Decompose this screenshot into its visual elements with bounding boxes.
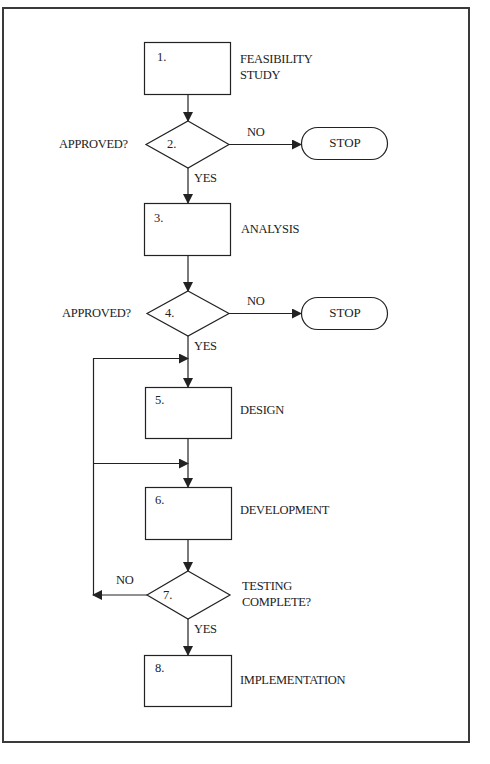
step-number-7: 7. xyxy=(163,588,172,602)
step-label-3: ANALYSIS xyxy=(241,222,299,237)
decision-label-7-line2: COMPLETE? xyxy=(242,595,311,610)
step-label-5: DESIGN xyxy=(240,403,284,418)
edge-label-2-no: NO xyxy=(247,125,264,140)
decision-label-2: APPROVED? xyxy=(59,137,128,152)
step-number-4: 4. xyxy=(165,306,174,320)
stop-terminal-2-label: STOP xyxy=(302,305,388,321)
step-number-5: 5. xyxy=(155,393,164,407)
step-label-6: DEVELOPMENT xyxy=(240,503,329,518)
step-label-8: IMPLEMENTATION xyxy=(240,673,345,688)
decision-label-7-line1: TESTING xyxy=(242,579,292,594)
decision-label-4: APPROVED? xyxy=(62,306,131,321)
flowchart-canvas xyxy=(0,0,490,764)
edge-label-7-yes: YES xyxy=(194,622,217,637)
decision-diamond-4 xyxy=(147,291,229,336)
edge-label-2-yes: YES xyxy=(194,171,217,186)
step-number-6: 6. xyxy=(155,493,164,507)
step-number-3: 3. xyxy=(154,211,163,225)
edge-label-4-yes: YES xyxy=(194,339,217,354)
step-number-2: 2. xyxy=(167,137,176,151)
stop-terminal-1-label: STOP xyxy=(302,135,388,151)
edge-label-7-no: NO xyxy=(116,573,133,588)
step-label-1-line1: FEASIBILITY xyxy=(240,52,312,67)
decision-diamond-2 xyxy=(146,121,229,168)
edge-label-4-no: NO xyxy=(247,294,264,309)
step-label-1-line2: STUDY xyxy=(240,68,280,83)
step-number-1: 1. xyxy=(157,50,166,64)
step-number-8: 8. xyxy=(155,661,164,675)
decision-diamond-7 xyxy=(147,571,230,619)
